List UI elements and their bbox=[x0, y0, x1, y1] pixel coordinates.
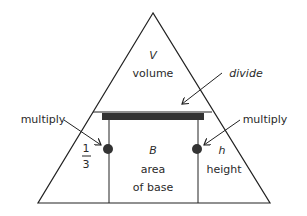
fraction-numerator: 1 bbox=[83, 142, 90, 155]
divide-label: divide bbox=[229, 67, 263, 80]
right-multiply-arrow bbox=[204, 120, 240, 145]
base-area-label-line2: of base bbox=[133, 181, 174, 194]
height-label: height bbox=[206, 163, 242, 176]
base-area-symbol: B bbox=[149, 144, 157, 157]
volume-symbol: V bbox=[149, 49, 158, 62]
left-multiply-label: multiply bbox=[21, 113, 66, 126]
volume-formula-triangle-diagram: V volume divide multiply multiply 1 3 B … bbox=[0, 0, 307, 216]
divide-arrow bbox=[182, 73, 222, 104]
base-area-label-line1: area bbox=[141, 163, 166, 176]
height-symbol: h bbox=[219, 144, 226, 157]
left-multiply-dot bbox=[103, 144, 113, 154]
fraction-denominator: 3 bbox=[83, 158, 90, 171]
right-multiply-dot bbox=[192, 144, 202, 154]
right-multiply-label: multiply bbox=[243, 113, 288, 126]
volume-label: volume bbox=[133, 67, 174, 80]
divide-bar bbox=[102, 113, 204, 120]
